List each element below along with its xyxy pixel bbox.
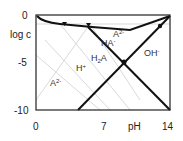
chart: 0 -5 -10 log c 0 7 pH 14 A2- HA- H2A H+ … (0, 0, 183, 141)
label-h-plus: H+ (76, 63, 87, 73)
marker-3 (158, 24, 162, 28)
label-oh-minus: OH- (144, 48, 160, 58)
xtick-14: 14 (162, 121, 174, 132)
label-ha: HA- (101, 38, 116, 48)
xtick-7: 7 (101, 121, 107, 132)
xtick-0: 0 (33, 121, 39, 132)
ytick-0: 0 (22, 10, 28, 21)
label-a2-lower: A2- (50, 78, 61, 88)
intersection-point (122, 60, 127, 65)
y-axis-label: log c (10, 29, 31, 40)
total-curve (37, 16, 170, 30)
h2a-line (45, 40, 110, 110)
ytick-5: -5 (18, 57, 27, 68)
x-axis-label: pH (128, 121, 141, 132)
label-h2a: H2A (91, 53, 107, 64)
ytick-10: -10 (14, 105, 29, 116)
h-thin-line (36, 55, 100, 110)
